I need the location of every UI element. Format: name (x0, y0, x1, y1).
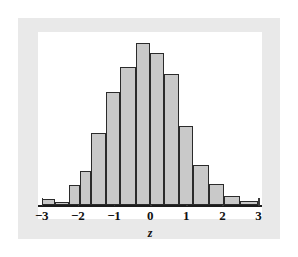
x-axis-tick-label: −3 (30, 209, 54, 223)
histogram-bars (38, 32, 262, 205)
x-axis-title: z (38, 226, 262, 241)
histogram-bar (193, 165, 208, 205)
x-axis-tick-label: 0 (138, 209, 162, 223)
x-axis-tick (258, 198, 260, 206)
x-axis-tick-label: −1 (102, 209, 126, 223)
histogram-bar (150, 53, 164, 205)
histogram-bar (164, 74, 178, 205)
histogram-plot: −3−2−10123 z (38, 32, 262, 219)
histogram-bar (120, 67, 135, 205)
histogram-bar (209, 184, 225, 205)
histogram-bar (240, 201, 258, 205)
histogram-bar (179, 126, 193, 205)
histogram-bar (136, 43, 150, 205)
x-axis-tick-label: 2 (210, 209, 234, 223)
histogram-bar (224, 196, 240, 206)
histogram-bar (55, 202, 68, 205)
histogram-bar (42, 199, 56, 205)
x-axis-tick-label: 3 (246, 209, 270, 223)
x-axis-tick-label: 1 (174, 209, 198, 223)
histogram-bar (69, 185, 80, 205)
x-axis-tick-label: −2 (66, 209, 90, 223)
histogram-bar (106, 92, 120, 205)
histogram-bar (80, 171, 92, 205)
figure-canvas: −3−2−10123 z (0, 0, 298, 257)
histogram-bar (91, 133, 105, 205)
